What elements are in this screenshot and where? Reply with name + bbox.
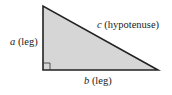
right-triangle — [43, 6, 158, 70]
hypotenuse-label: c (hypotenuse) — [97, 20, 159, 31]
horizontal-leg-label: b (leg) — [84, 76, 112, 87]
vertical-leg-label: a (leg) — [10, 37, 38, 48]
